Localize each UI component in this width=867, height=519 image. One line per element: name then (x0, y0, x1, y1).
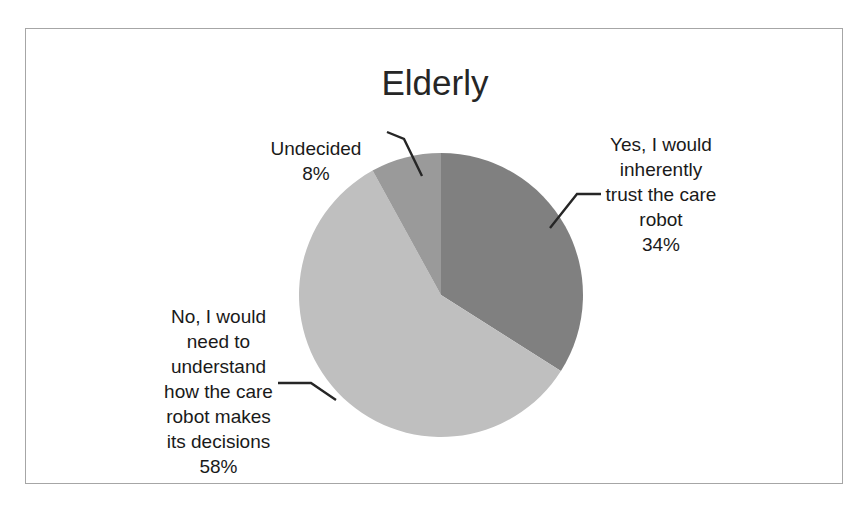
slice-label-no-percent: 58% (121, 454, 316, 479)
slice-label-undecided-percent: 8% (236, 161, 396, 186)
slice-label-no-text: No, I would need to understand how the c… (164, 306, 273, 452)
chart-plot-frame: Elderly Undecided 8% Yes, I would inhere… (25, 28, 843, 484)
slice-label-undecided: Undecided 8% (236, 111, 396, 211)
slice-label-yes: Yes, I would inherently trust the care r… (571, 107, 751, 282)
slice-label-yes-text: Yes, I would inherently trust the care r… (606, 134, 717, 230)
slice-label-no: No, I would need to understand how the c… (121, 279, 316, 504)
slice-label-undecided-text: Undecided (271, 138, 362, 159)
pie-chart-figure: Elderly Undecided 8% Yes, I would inhere… (0, 0, 867, 519)
slice-label-yes-percent: 34% (571, 232, 751, 257)
